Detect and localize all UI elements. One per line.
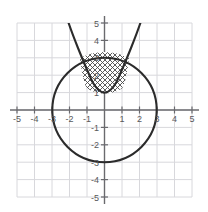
y-tick-label: -1: [91, 123, 99, 133]
x-tick-label: 2: [137, 114, 142, 124]
axis-lines: [10, 16, 199, 204]
y-tick-label: -2: [91, 140, 99, 150]
graph-figure: -5 -4 -3 -2 -1 1 2 3 4 5 5 4 3 2 1 -1 -2…: [0, 0, 208, 212]
y-tick-label: -3: [91, 158, 99, 168]
y-tick-label: -4: [91, 175, 99, 185]
x-tick-label: -3: [48, 114, 56, 124]
y-tick-label: 2: [94, 71, 99, 81]
x-tick-label: -1: [83, 114, 91, 124]
y-tick-label: 5: [94, 19, 99, 29]
x-tick-label: 1: [119, 114, 124, 124]
coordinate-plane-svg: -5 -4 -3 -2 -1 1 2 3 4 5 5 4 3 2 1 -1 -2…: [0, 0, 208, 212]
x-tick-label: -5: [13, 114, 21, 124]
x-tick-label: -4: [30, 114, 38, 124]
x-tick-label: 5: [189, 114, 194, 124]
y-tick-label: 4: [94, 36, 99, 46]
x-tick-label: 4: [172, 114, 177, 124]
y-tick-label: -5: [91, 193, 99, 203]
x-tick-label: 3: [154, 114, 159, 124]
y-tick-label: 1: [94, 88, 99, 98]
x-axis-tick-labels: -5 -4 -3 -2 -1 1 2 3 4 5: [13, 114, 195, 124]
y-tick-label: 3: [94, 53, 99, 63]
x-tick-label: -2: [65, 114, 73, 124]
